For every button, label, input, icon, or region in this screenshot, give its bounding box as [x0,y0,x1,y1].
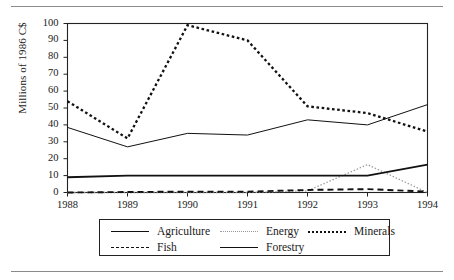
x-tick-label: 1991 [226,199,270,210]
legend-swatch-agriculture-icon [108,224,152,238]
x-tick-label: 1989 [106,199,150,210]
legend-item-agriculture[interactable]: Agriculture [108,222,210,239]
x-tick-label: 1994 [406,199,450,210]
y-tick-label: 80 [35,50,59,61]
legend-label-minerals: Minerals [349,225,395,237]
y-tick-label: 30 [35,135,59,146]
series-line-minerals [68,25,428,138]
y-tick-label: 100 [35,17,59,28]
legend-label-fish: Fish [152,241,177,253]
legend-item-energy[interactable]: Energy [217,222,299,239]
series-line-forestry [68,105,428,147]
legend-item-minerals[interactable]: Minerals [305,222,395,239]
y-tick-label: 40 [35,118,59,129]
y-tick-label: 10 [35,169,59,180]
legend-label-agriculture: Agriculture [152,225,210,237]
legend-row-1: Agriculture Energy Minerals [100,222,389,239]
y-tick-label: 20 [35,152,59,163]
legend-swatch-minerals-icon [305,224,349,238]
legend-swatch-forestry-icon [217,240,261,254]
y-tick-label: 60 [35,84,59,95]
figure-container: Millions of 1986 C$ Agriculture Energy M… [0,0,454,280]
series-line-agriculture [68,165,428,178]
y-tick-label: 0 [35,186,59,197]
legend-item-forestry[interactable]: Forestry [217,238,304,255]
legend-row-2: Fish Forestry [100,238,389,255]
legend-label-forestry: Forestry [261,241,304,253]
legend-label-energy: Energy [261,225,299,237]
x-tick-label: 1990 [166,199,210,210]
x-tick-label: 1993 [346,199,390,210]
y-tick-label: 90 [35,33,59,44]
legend-item-fish[interactable]: Fish [108,238,177,255]
legend-swatch-fish-icon [108,240,152,254]
chart-legend: Agriculture Energy Minerals Fish Forestr… [99,219,390,256]
legend-swatch-energy-icon [217,224,261,238]
x-tick-label: 1988 [46,199,90,210]
y-tick-label: 50 [35,101,59,112]
series-line-energy [68,165,428,193]
y-tick-label: 70 [35,67,59,78]
x-tick-label: 1992 [286,199,330,210]
